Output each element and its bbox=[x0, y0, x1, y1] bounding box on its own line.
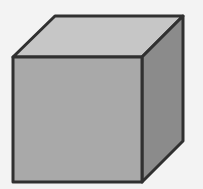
cube-diagram bbox=[0, 0, 203, 189]
cube-front-face bbox=[13, 57, 142, 182]
cube-illustration bbox=[0, 0, 203, 189]
